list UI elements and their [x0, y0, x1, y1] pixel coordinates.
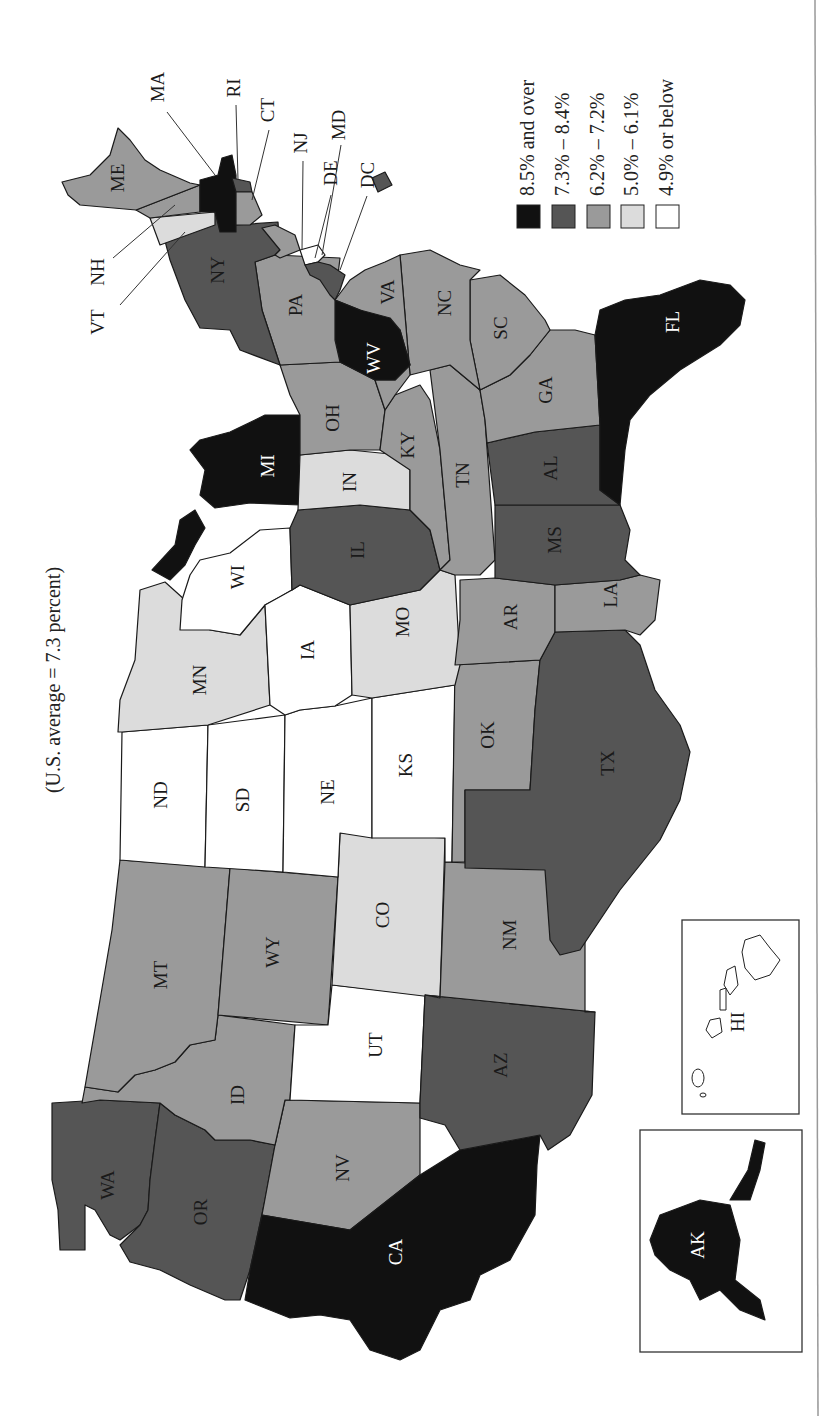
label-NM: NM: [499, 920, 520, 951]
legend-label-0: 8.5% and over: [516, 80, 538, 196]
label-IA: IA: [297, 640, 318, 660]
label-NE: NE: [317, 779, 338, 804]
label-CO: CO: [372, 902, 393, 928]
label-NJ: NJ: [290, 132, 311, 153]
label-HI: HI: [727, 1012, 748, 1032]
label-MD: MD: [328, 110, 349, 141]
legend-swatch-1: [552, 205, 575, 228]
label-WA: WA: [97, 1170, 118, 1200]
label-WV: WV: [363, 342, 384, 374]
legend: 8.5% and over 7.3% – 8.4% 6.2% – 7.2% 5.…: [516, 78, 679, 228]
label-PA: PA: [285, 293, 306, 316]
legend-swatch-2: [587, 205, 610, 228]
page-edge-rule: [815, 0, 818, 1416]
label-ID: ID: [227, 1085, 248, 1105]
label-DE: DE: [320, 160, 341, 185]
state-MS: [495, 505, 640, 585]
label-ME: ME: [107, 164, 128, 193]
legend-swatch-3: [621, 205, 644, 228]
label-AR: AR: [500, 603, 521, 630]
label-TN: TN: [452, 462, 473, 488]
label-KY: KY: [397, 431, 418, 459]
state-CT: [236, 192, 262, 225]
label-ND: ND: [150, 781, 171, 808]
label-WY: WY: [262, 936, 283, 968]
legend-label-4: 4.9% or below: [655, 78, 677, 196]
label-IL: IL: [347, 541, 368, 559]
label-OH: OH: [322, 404, 343, 432]
label-OK: OK: [477, 721, 498, 749]
label-VT: VT: [87, 309, 108, 335]
label-GA: GA: [535, 376, 556, 404]
label-AK: AK: [687, 1231, 708, 1259]
label-OR: OR: [190, 1198, 211, 1225]
label-SC: SC: [490, 316, 511, 339]
label-IN: IN: [339, 472, 360, 492]
state-MI: [190, 415, 300, 508]
label-NC: NC: [434, 290, 455, 316]
legend-label-1: 7.3% – 8.4%: [551, 93, 573, 196]
label-MS: MS: [544, 526, 565, 553]
us-choropleth-map: (U.S. average = 7.3 percent): [0, 0, 833, 1416]
legend-swatch-0: [517, 205, 540, 228]
map-title: (U.S. average = 7.3 percent): [42, 567, 65, 793]
label-NV: NV: [332, 1154, 353, 1182]
label-LA: LA: [600, 582, 621, 608]
label-RI: RI: [223, 79, 244, 98]
label-TX: TX: [597, 750, 618, 776]
label-NY: NY: [207, 256, 228, 284]
label-MO: MO: [392, 607, 413, 638]
label-CA: CA: [385, 1239, 406, 1266]
label-MI: MI: [257, 454, 278, 477]
label-VA: VA: [377, 279, 398, 304]
label-MT: MT: [150, 960, 171, 989]
label-KS: KS: [395, 753, 416, 777]
label-UT: UT: [365, 1032, 386, 1058]
legend-label-3: 5.0% – 6.1%: [620, 93, 642, 196]
label-MN: MN: [189, 664, 210, 695]
label-NH: NH: [87, 258, 108, 286]
label-SD: SD: [232, 788, 253, 812]
label-MA: MA: [147, 71, 168, 102]
legend-swatch-4: [656, 205, 679, 228]
label-WI: WI: [227, 565, 248, 589]
label-AZ: AZ: [490, 1052, 511, 1077]
label-FL: FL: [662, 311, 683, 333]
legend-label-2: 6.2% – 7.2%: [586, 93, 608, 196]
state-RI: [232, 178, 252, 192]
label-AL: AL: [540, 455, 561, 480]
label-DC: DC: [357, 162, 378, 188]
label-CT: CT: [257, 97, 278, 122]
